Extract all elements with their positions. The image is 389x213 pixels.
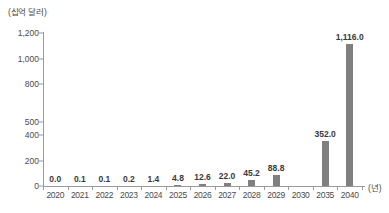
bar-value-label: 22.0 (219, 171, 236, 181)
x-axis-tick-mark (264, 186, 265, 190)
bar-value-label: 1.4 (148, 174, 160, 184)
bar-chart: (십억 달러) 1,2001,0008005004002000 (년) 2020… (0, 0, 389, 213)
y-axis-tick-mark (39, 135, 43, 136)
bar (273, 175, 280, 186)
x-axis-tick-label: 2027 (218, 190, 236, 200)
x-axis-tick-mark (141, 186, 142, 190)
x-axis-tick-label: 2040 (341, 190, 359, 200)
plot-area (43, 33, 362, 186)
y-axis-tick-mark (39, 122, 43, 123)
y-axis-tick-mark (39, 160, 43, 161)
x-axis-tick-mark (313, 186, 314, 190)
x-axis-tick-label: 2023 (120, 190, 138, 200)
x-axis-tick-mark (92, 186, 93, 190)
x-axis-tick-mark (190, 186, 191, 190)
x-axis-tick-label: 2030 (292, 190, 310, 200)
y-axis-tick-mark (39, 84, 43, 85)
bar-value-label: 88.8 (268, 163, 285, 173)
x-axis-tick-mark (215, 186, 216, 190)
bar-value-label: 45.2 (243, 168, 260, 178)
y-axis-tick-label: 500 (25, 117, 39, 127)
bar-value-label: 0.1 (98, 174, 110, 184)
bar-value-label: 0.1 (74, 174, 86, 184)
bar (199, 184, 206, 186)
bar-value-label: 12.6 (194, 172, 211, 182)
bar (346, 44, 353, 186)
x-axis-tick-label: 2020 (46, 190, 64, 200)
y-axis-tick-label: 400 (25, 130, 39, 140)
y-axis-tick-labels: 1,2001,0008005004002000 (0, 0, 39, 213)
x-axis-tick-mark (117, 186, 118, 190)
x-axis-tick-label: 2025 (169, 190, 187, 200)
x-axis-tick-mark (166, 186, 167, 190)
x-axis-tick-mark (362, 186, 363, 190)
x-axis-tick-label: 2029 (267, 190, 285, 200)
x-axis-tick-mark (239, 186, 240, 190)
bar-value-label: 4.8 (172, 173, 184, 183)
x-axis-tick-label: 2021 (71, 190, 89, 200)
x-axis-tick-label: 2026 (194, 190, 212, 200)
y-axis-tick-label: 1,000 (18, 54, 39, 64)
bar (322, 141, 329, 186)
x-axis-tick-label: 2024 (145, 190, 163, 200)
bar-value-label: 1,116.0 (336, 32, 364, 42)
x-axis-unit-label: (년) (368, 181, 382, 193)
y-axis-tick-label: 1,200 (18, 28, 39, 38)
x-axis-tick-label: 2022 (95, 190, 113, 200)
bar-value-label: 0.2 (123, 174, 135, 184)
bar-value-label: 0.0 (49, 174, 61, 184)
x-axis-tick-mark (337, 186, 338, 190)
x-axis-tick-mark (43, 186, 44, 190)
x-axis-tick-label: 2028 (243, 190, 261, 200)
y-axis-tick-label: 800 (25, 79, 39, 89)
y-axis-tick-label: 200 (25, 156, 39, 166)
x-axis-tick-label: 2035 (316, 190, 334, 200)
bar (174, 185, 181, 186)
y-axis-tick-mark (39, 33, 43, 34)
x-axis-tick-mark (288, 186, 289, 190)
x-axis-tick-mark (68, 186, 69, 190)
bar-value-label: 352.0 (315, 129, 336, 139)
bar (224, 183, 231, 186)
y-axis-tick-mark (39, 58, 43, 59)
bar (248, 180, 255, 186)
